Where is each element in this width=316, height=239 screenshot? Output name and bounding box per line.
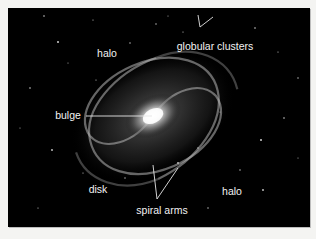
galaxy-image: [8, 8, 310, 227]
label-halo-bottom: halo: [222, 185, 242, 197]
label-bulge: bulge: [55, 109, 81, 121]
label-halo-top: halo: [97, 47, 117, 59]
label-globular-clusters: globular clusters: [177, 40, 253, 52]
label-disk: disk: [89, 183, 108, 195]
label-spiral-arms: spiral arms: [136, 204, 187, 216]
galaxy-diagram: halo globular clusters bulge disk spiral…: [8, 8, 310, 227]
